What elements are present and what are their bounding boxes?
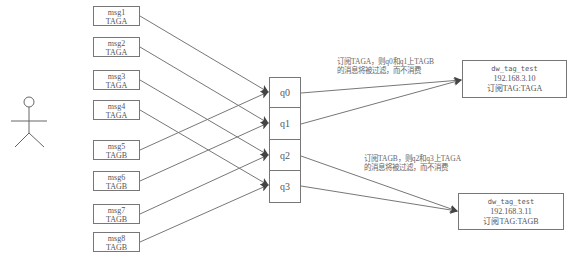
note-line: 的消息将被过滤，而不消费 xyxy=(337,66,434,75)
message-arrows xyxy=(140,16,268,242)
message-tag: TAGA xyxy=(94,81,139,90)
consumer-subscription: 订阅TAG:TAGA xyxy=(463,84,566,94)
message-name: msg3 xyxy=(94,72,139,81)
message-tag: TAGB xyxy=(94,215,139,224)
message-name: msg2 xyxy=(94,39,139,48)
arrow-line xyxy=(140,123,268,181)
queue-q2: q2 xyxy=(270,140,300,171)
message-name: msg6 xyxy=(94,173,139,182)
consumer-box-2: dw_tag_test 192.168.3.11 订阅TAG:TAGB xyxy=(458,193,564,230)
note-line: 订阅TAGA，则q0和q1上TAGB xyxy=(337,57,434,66)
message-name: msg8 xyxy=(94,234,139,243)
message-name: msg7 xyxy=(94,206,139,215)
arrow-line xyxy=(140,47,268,123)
consumer-name: dw_tag_test xyxy=(463,64,566,74)
message-box-msg3: msg3 TAGA xyxy=(93,70,140,90)
message-tag: TAGB xyxy=(94,151,139,160)
filter-note-tagb: 订阅TAGB，则q2和q3上TAGA 的消息将被过滤，而不消费 xyxy=(364,154,461,172)
message-tag: TAGA xyxy=(94,48,139,57)
message-box-msg7: msg7 TAGB xyxy=(93,204,140,224)
message-box-msg5: msg5 TAGB xyxy=(93,140,140,160)
message-box-msg8: msg8 TAGB xyxy=(93,232,140,252)
consumer-name: dw_tag_test xyxy=(459,197,563,207)
note-line: 订阅TAGB，则q2和q3上TAGA xyxy=(364,154,461,163)
queue-q3: q3 xyxy=(270,171,300,202)
message-box-msg4: msg4 TAGA xyxy=(93,100,140,120)
queue-q1: q1 xyxy=(270,108,300,140)
queue-label: q0 xyxy=(270,78,300,108)
message-tag: TAGB xyxy=(94,243,139,252)
queue-q0: q0 xyxy=(270,78,300,108)
consumer-box-1: dw_tag_test 192.168.3.10 订阅TAG:TAGA xyxy=(462,60,567,98)
consumer-arrows xyxy=(301,80,461,211)
message-box-msg6: msg6 TAGB xyxy=(93,171,140,191)
filter-note-taga: 订阅TAGA，则q0和q1上TAGB 的消息将被过滤，而不消费 xyxy=(337,57,434,75)
message-name: msg1 xyxy=(94,8,139,17)
arrow-line xyxy=(140,185,268,242)
message-name: msg5 xyxy=(94,142,139,151)
message-tag: TAGA xyxy=(94,17,139,26)
consumer-subscription: 订阅TAG:TAGB xyxy=(459,217,563,227)
consumer-ip: 192.168.3.11 xyxy=(459,207,563,217)
arrow-line xyxy=(140,155,268,214)
queue-label: q1 xyxy=(270,108,300,140)
message-name: msg4 xyxy=(94,102,139,111)
actor-icon xyxy=(11,97,47,147)
arrow-line xyxy=(140,16,268,92)
message-box-msg1: msg1 TAGA xyxy=(93,6,140,26)
arrow-line xyxy=(301,186,457,211)
arrow-line xyxy=(140,80,268,155)
queue-label: q2 xyxy=(270,140,300,171)
message-box-msg2: msg2 TAGA xyxy=(93,37,140,57)
message-tag: TAGB xyxy=(94,182,139,191)
consumer-ip: 192.168.3.10 xyxy=(463,74,566,84)
queue-label: q3 xyxy=(270,171,300,202)
queue-stack: q0 q1 q2 q3 xyxy=(269,77,301,203)
note-line: 的消息将被过滤，而不消费 xyxy=(364,163,461,172)
message-tag: TAGA xyxy=(94,111,139,120)
